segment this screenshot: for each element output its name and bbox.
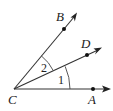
label-a: A [87,92,96,107]
label-c: C [8,92,17,107]
point-b [62,27,66,31]
angle-1-label: 1 [58,73,64,87]
label-b: B [56,9,64,24]
point-d [85,53,89,57]
angle-1-arc [65,66,70,89]
label-d: D [80,36,91,51]
angle-2-label: 2 [41,61,47,75]
point-a [91,87,95,91]
angle-diagram: C A D B 1 2 [0,0,113,111]
